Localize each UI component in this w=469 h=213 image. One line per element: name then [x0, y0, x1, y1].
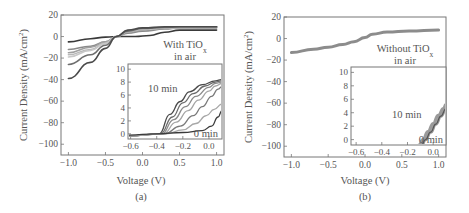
y-tick-label: −20: [43, 53, 58, 63]
y-tick-label: 4: [121, 103, 126, 113]
panel-b-inset-label-0min: 0 min: [419, 134, 444, 145]
x-tick-label: −0.4: [149, 141, 166, 151]
y-tick-label: −100: [261, 141, 281, 151]
y-tick-label: 4: [344, 108, 349, 118]
x-tick-label: 0.0: [137, 158, 149, 168]
x-tick-label: −1.0: [60, 158, 77, 168]
x-tick-label: 0.5: [396, 160, 408, 170]
panel-a-x-axis-label: Voltage (V): [116, 175, 166, 187]
y-tick-label: −40: [266, 77, 281, 87]
panel-b-annotation-line2: in air: [394, 55, 416, 66]
y-tick-label: −20: [266, 55, 281, 65]
panel-b-inset-label-10min: 10 min: [392, 109, 422, 120]
panel-a-chart: −1.0−0.50.00.51.0200−20−40−60−80−100 Cur…: [17, 10, 224, 203]
y-tick-label: 10: [339, 67, 349, 77]
x-tick-label: −0.5: [320, 160, 337, 170]
x-tick-label: −0.2: [399, 147, 415, 157]
panel-a-inset-label-0min: 0 min: [194, 128, 219, 139]
y-tick-label: −80: [266, 120, 281, 130]
y-tick-label: 6: [344, 94, 349, 104]
y-tick-label: 0: [121, 129, 126, 139]
x-tick-label: −0.6: [348, 147, 365, 157]
y-tick-label: −40: [43, 75, 58, 85]
figure: −1.0−0.50.00.51.0200−20−40−60−80−100 Cur…: [0, 0, 469, 213]
y-tick-label: −60: [266, 98, 281, 108]
y-tick-label: 6: [121, 90, 126, 100]
x-tick-label: 0.5: [174, 158, 186, 168]
panel-b-y-axis-label: Current Density (mA/cm2): [242, 31, 255, 143]
y-tick-label: 0: [344, 135, 349, 145]
panel-b-chart: −1.0−0.50.00.51.0200−20−40−60−80−100 Cur…: [242, 12, 446, 203]
y-tick-label: 20: [272, 12, 282, 22]
panel-a-y-axis-label: Current Density (mA/cm2): [17, 29, 30, 141]
y-tick-label: 8: [344, 81, 349, 91]
x-tick-label: 0.0: [428, 147, 440, 157]
x-tick-label: 1.0: [433, 160, 445, 170]
y-tick-label: −60: [43, 96, 58, 106]
y-tick-label: −80: [43, 118, 58, 128]
y-tick-label: 0: [53, 32, 58, 42]
x-tick-label: −0.6: [122, 141, 139, 151]
y-tick-label: 10: [116, 64, 126, 74]
x-tick-label: 1.0: [211, 158, 223, 168]
y-tick-label: 2: [121, 116, 126, 126]
y-tick-label: 0: [276, 34, 281, 44]
panel-b-caption: (b): [359, 191, 372, 203]
x-tick-label: 0.0: [359, 160, 371, 170]
x-tick-label: −0.5: [97, 158, 114, 168]
x-tick-label: −0.4: [374, 147, 391, 157]
y-tick-label: 20: [49, 10, 59, 20]
y-tick-label: −100: [38, 139, 58, 149]
x-tick-label: −1.0: [283, 160, 300, 170]
panel-a-caption: (a): [135, 191, 147, 203]
panel-a-inset-label-10min: 10 min: [148, 83, 178, 94]
x-tick-label: −0.2: [175, 141, 191, 151]
y-tick-label: 8: [121, 77, 126, 87]
y-tick-label: 2: [344, 121, 349, 131]
x-tick-label: 0.0: [203, 141, 215, 151]
panel-b-x-axis-label: Voltage (V): [340, 175, 390, 187]
panel-a-annotation-line2: in air: [174, 51, 196, 62]
